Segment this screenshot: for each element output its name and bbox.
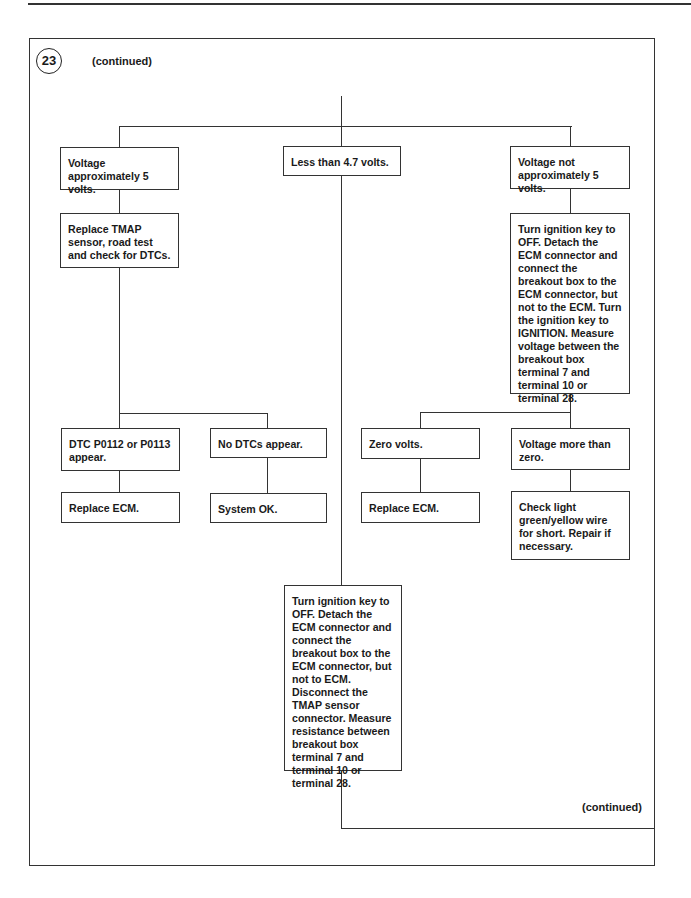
- connector: [119, 267, 120, 413]
- node-voltage-approx-5: Voltage approximately 5 volts.: [60, 147, 179, 190]
- node-replace-tmap: Replace TMAP sensor, road test and check…: [60, 213, 179, 268]
- continued-label-bottom: (continued): [582, 801, 642, 813]
- node-voltage-more-than-zero: Voltage more than zero.: [511, 428, 630, 470]
- connector: [341, 175, 342, 585]
- node-voltage-not-approx-5: Voltage not approximately 5 volts.: [510, 146, 630, 189]
- node-replace-ecm-left: Replace ECM.: [61, 492, 180, 523]
- connector: [267, 457, 268, 493]
- connector: [420, 412, 421, 428]
- connector: [119, 189, 120, 214]
- connector: [420, 458, 421, 493]
- page-header-rule: [28, 3, 691, 5]
- node-replace-ecm-right: Replace ECM.: [361, 492, 480, 523]
- connector: [341, 828, 655, 829]
- connector: [341, 126, 342, 146]
- node-measure-resistance: Turn ignition key to OFF. Detach the ECM…: [284, 585, 402, 771]
- connector: [119, 470, 120, 493]
- connector: [570, 412, 571, 428]
- connector: [570, 126, 571, 146]
- step-number-badge: 23: [36, 48, 62, 74]
- connector: [119, 413, 267, 414]
- continued-label-top: (continued): [92, 55, 152, 67]
- connector: [420, 412, 570, 413]
- node-system-ok: System OK.: [210, 493, 327, 523]
- node-measure-voltage-breakout: Turn ignition key to OFF. Detach the ECM…: [510, 213, 630, 394]
- node-dtc-p0112-p0113: DTC P0112 or P0113 appear.: [61, 428, 180, 471]
- connector: [119, 126, 120, 147]
- node-no-dtcs: No DTCs appear.: [210, 428, 327, 458]
- connector: [119, 413, 120, 428]
- node-check-wire: Check light green/yellow wire for short.…: [511, 491, 630, 560]
- connector: [119, 126, 572, 127]
- connector: [267, 413, 268, 428]
- connector: [341, 96, 342, 126]
- node-less-than-4-7: Less than 4.7 volts.: [283, 146, 401, 176]
- connector: [570, 469, 571, 491]
- connector: [570, 188, 571, 214]
- node-zero-volts: Zero volts.: [361, 428, 480, 459]
